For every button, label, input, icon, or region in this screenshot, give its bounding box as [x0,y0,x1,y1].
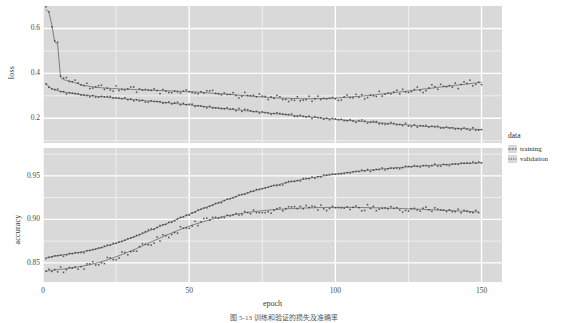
figure-caption: 图 5-13 训练和验证的损失及准确率 [0,312,568,322]
accuracy-plot-area [43,148,502,282]
legend-item-validation[interactable]: validation [508,154,548,164]
x-tick: 50 [185,286,193,295]
x-axis-title: epoch [43,299,502,308]
x-tick: 0 [41,286,45,295]
legend-marker-validation-icon [508,155,517,163]
accuracy-y-tick: 0.95 [4,171,40,180]
x-tick: 100 [330,286,341,295]
loss-plot-area [43,6,502,143]
legend-marker-training-icon [508,145,517,153]
accuracy-panel [43,148,502,282]
accuracy-axis-title: accuracy [13,200,22,260]
legend: data training validation [508,131,548,164]
figure-root: 0.20.40.6 loss 0.850.900.95 accuracy 050… [0,0,568,323]
accuracy-y-tick: 0.85 [4,258,40,267]
legend-title: data [508,131,548,142]
legend-label-validation: validation [520,154,548,164]
loss-panel [43,6,502,143]
accuracy-y-tick: 0.90 [4,214,40,223]
legend-item-training[interactable]: training [508,144,548,154]
accuracy-y-tick-labels: 0.850.900.95 [0,0,40,323]
x-tick: 150 [476,286,487,295]
legend-label-training: training [520,144,542,154]
